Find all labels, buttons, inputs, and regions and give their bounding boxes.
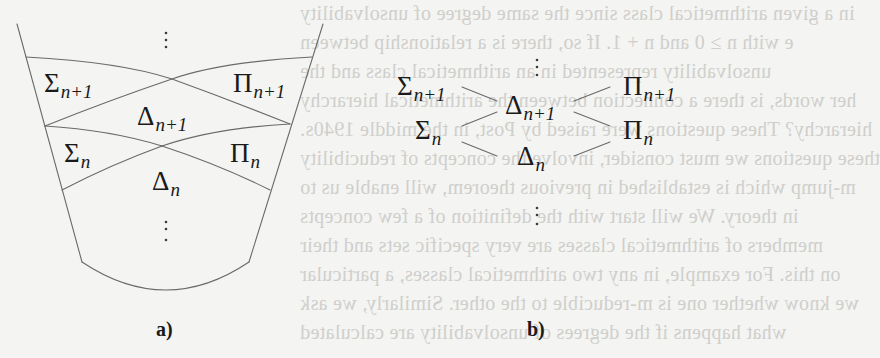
subscript: n+1 bbox=[61, 81, 93, 102]
ellipsis-dot bbox=[536, 59, 539, 62]
ellipsis-dot bbox=[165, 39, 168, 42]
subscript: n bbox=[644, 128, 654, 149]
subscript: n+1 bbox=[644, 84, 676, 105]
ellipsis-dot bbox=[536, 74, 539, 77]
sigma-symbol: Σ bbox=[397, 71, 413, 101]
label-sigma-n-plus-1: Σn+1 bbox=[44, 70, 93, 97]
ellipsis-dot bbox=[165, 46, 168, 49]
delta-symbol: Δ bbox=[505, 90, 522, 120]
edge-delta-n1-pi-n bbox=[574, 112, 610, 126]
edge-sigma-n-delta-n1 bbox=[462, 112, 497, 126]
label-sigma-n: Σn bbox=[64, 140, 90, 167]
edge-sigma-n-delta-n bbox=[462, 142, 497, 156]
subscript: n+1 bbox=[414, 84, 446, 105]
sigma-symbol: Σ bbox=[64, 138, 80, 168]
label-pi-n: Πn bbox=[623, 117, 653, 144]
pi-symbol: Π bbox=[623, 71, 643, 101]
label-sigma-n: Σn bbox=[415, 117, 441, 144]
subscript: n+1 bbox=[155, 114, 187, 135]
subscript: n bbox=[170, 179, 180, 200]
label-pi-n: Πn bbox=[230, 140, 260, 167]
label-delta-n: Δn bbox=[152, 168, 180, 195]
subscript: n+1 bbox=[254, 81, 286, 102]
label-delta-n-plus-1: Δn+1 bbox=[137, 103, 187, 130]
delta-symbol: Δ bbox=[517, 141, 534, 171]
subscript: n bbox=[432, 128, 442, 149]
pi-symbol: Π bbox=[230, 138, 250, 168]
subscript: n+1 bbox=[523, 103, 555, 124]
pi-symbol: Π bbox=[233, 68, 253, 98]
ellipsis-dot bbox=[165, 32, 168, 35]
subscript: n bbox=[81, 151, 91, 172]
ellipsis-dot bbox=[165, 228, 168, 231]
label-delta-n: Δn bbox=[517, 143, 545, 170]
delta-symbol: Δ bbox=[137, 101, 154, 131]
subscript: n bbox=[251, 151, 261, 172]
ellipsis-dot bbox=[536, 66, 539, 69]
ellipsis-dot bbox=[536, 223, 539, 226]
label-sigma-n-plus-1: Σn+1 bbox=[397, 73, 446, 100]
sigma-symbol: Σ bbox=[44, 68, 60, 98]
edge-delta-n1-pi-n1 bbox=[574, 87, 610, 101]
label-pi-n-plus-1: Πn+1 bbox=[623, 73, 675, 100]
label-delta-n-plus-1: Δn+1 bbox=[505, 92, 555, 119]
ellipsis-dot bbox=[536, 207, 539, 210]
sigma-symbol: Σ bbox=[415, 115, 431, 145]
funnel-bottom-arc bbox=[82, 262, 249, 290]
pi-symbol: Π bbox=[623, 115, 643, 145]
edge-delta-n-pi-n bbox=[574, 142, 610, 156]
delta-symbol: Δ bbox=[152, 166, 169, 196]
ellipsis-dot bbox=[165, 221, 168, 224]
caption-panel-b: b) bbox=[527, 318, 545, 341]
ellipsis-dot bbox=[165, 239, 168, 242]
caption-panel-a: a) bbox=[156, 318, 173, 341]
funnel-right-edge bbox=[249, 24, 323, 262]
ellipsis-dot bbox=[536, 214, 539, 217]
label-pi-n-plus-1: Πn+1 bbox=[233, 70, 285, 97]
edge-sigma-n1-delta-n1 bbox=[462, 87, 497, 101]
subscript: n bbox=[535, 154, 545, 175]
